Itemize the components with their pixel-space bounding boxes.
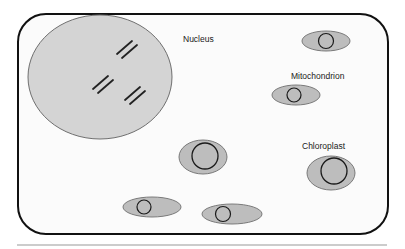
organelle-bottom-middle — [202, 204, 262, 224]
organelle-inner-circle — [319, 34, 334, 49]
organelle-inner-circle — [216, 207, 231, 222]
nucleus-body — [28, 15, 172, 139]
mitochondrion-inner-circle — [287, 88, 301, 102]
mitochondrion-label: Mitochondrion — [291, 71, 345, 81]
nucleus-label: Nucleus — [183, 34, 214, 44]
nucleus — [28, 15, 172, 139]
organelle-center — [179, 140, 227, 174]
organelle-bottom-left — [123, 197, 181, 217]
chloroplast-label: Chloroplast — [302, 141, 346, 151]
cell-diagram: Nucleus Mitochondrion Chloroplast — [0, 0, 405, 249]
chloroplast — [307, 156, 355, 190]
organelle-top-right — [302, 31, 350, 51]
organelle-inner-circle — [137, 200, 151, 214]
chloroplast-inner-circle — [321, 158, 347, 184]
organelle-inner-circle — [192, 143, 218, 169]
mitochondrion — [272, 85, 320, 105]
